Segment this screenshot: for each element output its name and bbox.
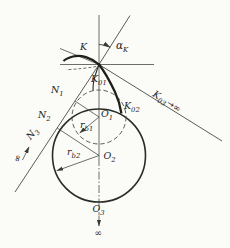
involute-geometry-diagram: K αK K01 K02 K03→∞ N1 N2 N3 ∞ O1 O2 O3 r…	[0, 0, 230, 248]
label-o1: O1	[101, 109, 113, 121]
label-infinity-o3: ∞	[95, 229, 103, 238]
label-rb1: rb1	[80, 120, 93, 132]
label-rb2: rb2	[67, 147, 80, 159]
label-n1: N1	[51, 85, 64, 97]
involute-1-extension-dashed	[66, 67, 96, 70]
label-alpha-k: αK	[116, 40, 128, 53]
label-o3: O3	[93, 204, 105, 216]
label-o2: O2	[104, 151, 116, 163]
diagram-canvas	[0, 0, 230, 248]
n3-infinity-arrow	[23, 147, 30, 160]
label-k01: K01	[91, 74, 107, 86]
label-n2: N2	[38, 110, 51, 122]
pressure-angle-arc	[99, 44, 110, 47]
line-of-action	[15, 16, 130, 193]
label-k: K	[80, 42, 87, 52]
label-k02: K02	[124, 101, 140, 113]
point-k	[98, 63, 101, 66]
